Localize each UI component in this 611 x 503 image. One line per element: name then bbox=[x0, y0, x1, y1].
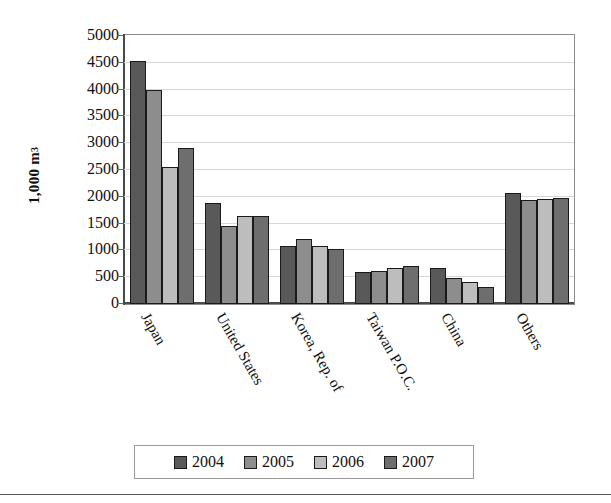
chart-legend: 2004200520062007 bbox=[134, 445, 474, 479]
bar bbox=[521, 200, 537, 304]
bar bbox=[328, 249, 344, 304]
y-axis-tick-label: 2000 bbox=[61, 188, 119, 204]
y-axis-tick-label: 1000 bbox=[61, 241, 119, 257]
bar bbox=[205, 203, 221, 304]
bar bbox=[403, 266, 419, 304]
y-axis-title-text: 1,000 m bbox=[26, 152, 43, 204]
bar bbox=[146, 90, 162, 304]
y-axis-tick-mark bbox=[117, 89, 123, 90]
x-axis-category-label: United States bbox=[212, 310, 267, 388]
bar bbox=[537, 199, 553, 304]
y-axis-tick-mark bbox=[117, 276, 123, 277]
bar bbox=[505, 193, 521, 304]
bar bbox=[178, 148, 194, 304]
bar-group bbox=[274, 35, 349, 304]
y-axis-tick-mark bbox=[117, 35, 123, 36]
y-axis-tick-mark bbox=[117, 115, 123, 116]
bar-group bbox=[499, 35, 574, 304]
bar-group bbox=[124, 35, 199, 304]
y-axis-tick-mark bbox=[117, 223, 123, 224]
legend-label: 2004 bbox=[192, 454, 224, 470]
y-axis-tick-mark bbox=[117, 62, 123, 63]
bar bbox=[296, 239, 312, 304]
x-axis-category-label: Korea, Rep. of bbox=[287, 310, 346, 395]
bar-group bbox=[199, 35, 274, 304]
bar bbox=[387, 268, 403, 304]
x-axis-category-label: Others bbox=[512, 310, 547, 353]
legend-label: 2006 bbox=[332, 454, 364, 470]
legend-item: 2004 bbox=[174, 454, 224, 470]
x-axis-category-label: China bbox=[437, 310, 470, 350]
bar bbox=[312, 246, 328, 304]
legend-label: 2007 bbox=[402, 454, 434, 470]
legend-swatch bbox=[384, 456, 397, 469]
y-axis-tick-mark bbox=[117, 169, 123, 170]
y-axis-tick-labels: 5000450040003500300025002000150010005000 bbox=[57, 34, 119, 305]
x-axis-category-label: Japan bbox=[137, 310, 169, 348]
y-axis-tick-label: 5000 bbox=[61, 27, 119, 43]
y-axis-tick-label: 4500 bbox=[61, 54, 119, 70]
bar bbox=[162, 167, 178, 304]
legend-swatch bbox=[314, 456, 327, 469]
legend-item: 2006 bbox=[314, 454, 364, 470]
y-axis-title: 1,000 m3 bbox=[22, 120, 46, 230]
bar-chart: 1,000 m3 5000450040003500300025002000150… bbox=[0, 0, 611, 503]
bar bbox=[280, 246, 296, 304]
page-bottom-rule bbox=[0, 494, 611, 495]
bar bbox=[221, 226, 237, 304]
legend-label: 2005 bbox=[262, 454, 294, 470]
y-axis-tick-mark bbox=[117, 196, 123, 197]
y-axis-tick-label: 2500 bbox=[61, 161, 119, 177]
y-axis-title-superscript: 3 bbox=[29, 146, 40, 151]
bar bbox=[430, 268, 446, 304]
bar bbox=[446, 278, 462, 304]
legend-item: 2007 bbox=[384, 454, 434, 470]
y-axis-tick-mark bbox=[117, 142, 123, 143]
y-axis-tick-mark bbox=[117, 303, 123, 304]
bar bbox=[462, 282, 478, 304]
x-axis-category-labels: JapanUnited StatesKorea, Rep. ofTaiwan P… bbox=[124, 306, 574, 436]
bar bbox=[478, 287, 494, 304]
bar bbox=[237, 216, 253, 304]
y-axis-tick-mark bbox=[117, 249, 123, 250]
y-axis-tick-label: 500 bbox=[61, 268, 119, 284]
y-axis-tick-label: 3000 bbox=[61, 134, 119, 150]
bar bbox=[553, 198, 569, 304]
y-axis-tick-label: 4000 bbox=[61, 81, 119, 97]
legend-swatch bbox=[174, 456, 187, 469]
y-axis-tick-label: 0 bbox=[61, 295, 119, 311]
bar bbox=[371, 271, 387, 304]
legend-item: 2005 bbox=[244, 454, 294, 470]
y-axis-tick-label: 1500 bbox=[61, 215, 119, 231]
bar-group bbox=[349, 35, 424, 304]
bar-groups bbox=[124, 35, 574, 304]
bar-group bbox=[424, 35, 499, 304]
legend-swatch bbox=[244, 456, 257, 469]
bar bbox=[253, 216, 269, 304]
bar bbox=[355, 272, 371, 304]
bar bbox=[130, 61, 146, 305]
y-axis-tick-label: 3500 bbox=[61, 107, 119, 123]
x-axis-category-label: Taiwan P.O.C. bbox=[362, 310, 420, 393]
